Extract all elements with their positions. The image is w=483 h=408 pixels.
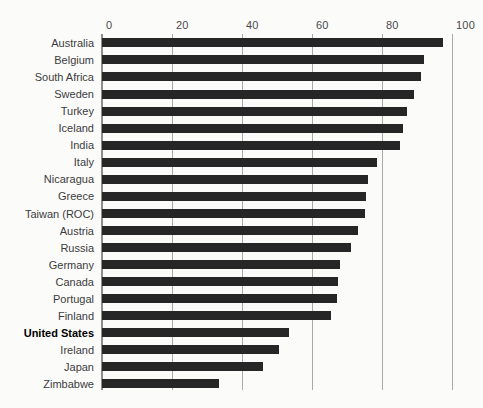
bar-taiwan-roc (102, 209, 365, 218)
bar-australia (102, 38, 443, 47)
bar-row: Belgium (0, 52, 483, 69)
bar-row: Japan (0, 359, 483, 376)
bar-row: Ireland (0, 342, 483, 359)
bar-germany (102, 260, 340, 269)
bar-portugal (102, 294, 337, 303)
bar-ireland (102, 345, 279, 354)
bar-rows: AustraliaBelgiumSouth AfricaSwedenTurkey… (0, 0, 483, 408)
bar-row: Germany (0, 257, 483, 274)
bar-label-austria: Austria (60, 225, 94, 237)
bar-label-sweden: Sweden (54, 88, 94, 100)
bar-label-greece: Greece (58, 190, 94, 202)
bar-greece (102, 192, 366, 201)
bar-zimbabwe (102, 379, 219, 388)
bar-belgium (102, 55, 424, 64)
bar-row: United States (0, 325, 483, 342)
bar-label-italy: Italy (74, 156, 94, 168)
bar-row: Italy (0, 154, 483, 171)
bar-row: Taiwan (ROC) (0, 206, 483, 223)
bar-label-south-africa: South Africa (35, 71, 94, 83)
bar-row: Iceland (0, 120, 483, 137)
bar-row: India (0, 137, 483, 154)
bar-canada (102, 277, 338, 286)
bar-label-russia: Russia (60, 242, 94, 254)
bar-south-africa (102, 72, 421, 81)
bar-italy (102, 158, 377, 167)
bar-row: Sweden (0, 86, 483, 103)
bar-label-nicaragua: Nicaragua (44, 173, 94, 185)
bar-japan (102, 362, 263, 371)
bar-row: Austria (0, 223, 483, 240)
bar-row: Australia (0, 35, 483, 52)
bar-finland (102, 311, 331, 320)
bar-label-india: India (70, 139, 94, 151)
bar-label-iceland: Iceland (59, 122, 94, 134)
bar-row: Nicaragua (0, 171, 483, 188)
bar-row: Portugal (0, 291, 483, 308)
bar-label-united-states: United States (24, 327, 94, 339)
bar-nicaragua (102, 175, 368, 184)
bar-chart: 020406080100 AustraliaBelgiumSouth Afric… (0, 0, 483, 408)
bar-label-portugal: Portugal (53, 293, 94, 305)
bar-row: Canada (0, 274, 483, 291)
bar-label-zimbabwe: Zimbabwe (43, 378, 94, 390)
bar-label-germany: Germany (49, 259, 94, 271)
bar-label-belgium: Belgium (54, 54, 94, 66)
bar-sweden (102, 90, 414, 99)
bar-row: Russia (0, 240, 483, 257)
bar-row: Zimbabwe (0, 376, 483, 393)
bar-label-australia: Australia (51, 37, 94, 49)
bar-label-canada: Canada (55, 276, 94, 288)
bar-united-states (102, 328, 289, 337)
bar-label-taiwan-roc: Taiwan (ROC) (25, 208, 94, 220)
bar-row: Turkey (0, 103, 483, 120)
bar-iceland (102, 124, 403, 133)
bar-label-japan: Japan (64, 361, 94, 373)
bar-label-ireland: Ireland (60, 344, 94, 356)
bar-row: Finland (0, 308, 483, 325)
bar-label-turkey: Turkey (61, 105, 94, 117)
bar-row: Greece (0, 188, 483, 205)
bar-india (102, 141, 400, 150)
bar-row: South Africa (0, 69, 483, 86)
bar-turkey (102, 107, 407, 116)
bar-russia (102, 243, 351, 252)
bar-austria (102, 226, 358, 235)
bar-label-finland: Finland (58, 310, 94, 322)
